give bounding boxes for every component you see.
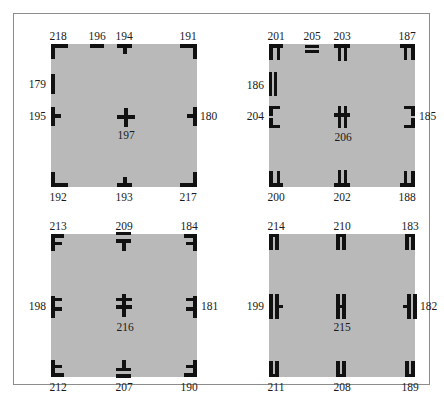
mark-label: 195	[29, 111, 46, 123]
mark-label: 181	[201, 301, 218, 313]
panel-top-right: 201 205 203 187 186	[242, 22, 442, 212]
mark-label: 210	[333, 221, 350, 233]
mark-label: 191	[179, 31, 196, 43]
mark-label: 198	[29, 301, 46, 313]
mark-label: 184	[180, 221, 197, 233]
mark-label: 193	[115, 192, 132, 204]
mark-label: 206	[334, 132, 351, 144]
mark-label: 180	[200, 111, 217, 123]
mark-label: 208	[333, 382, 350, 394]
mark-label: 194	[115, 31, 132, 43]
mark-label: 212	[49, 382, 66, 394]
panel-grid: 218 196 194 191 179 195	[0, 0, 444, 413]
mark-label: 207	[115, 382, 132, 394]
mark-label: 187	[398, 31, 415, 43]
mark-label: 182	[420, 301, 437, 313]
mark-label: 215	[333, 322, 350, 334]
mark-label: 186	[247, 80, 264, 92]
mark-label: 218	[49, 31, 66, 43]
mark-label: 189	[401, 382, 418, 394]
mark-label: 214	[267, 221, 284, 233]
mark-label: 211	[268, 382, 285, 394]
mark-label: 213	[49, 221, 66, 233]
panel-top-left: 218 196 194 191 179 195	[24, 22, 224, 212]
mark-label: 199	[247, 301, 264, 313]
mark-label: 188	[398, 192, 415, 204]
mark-label: 205	[303, 31, 320, 43]
mark-label: 183	[401, 221, 418, 233]
mark-label: 202	[333, 192, 350, 204]
mark-label: 203	[333, 31, 350, 43]
mark-label: 196	[88, 31, 105, 43]
panel-bottom-left: 213 209 184 198 216	[24, 212, 224, 402]
mark-label: 209	[115, 221, 132, 233]
mark-label: 216	[116, 322, 133, 334]
mark-label: 197	[117, 130, 134, 142]
mark-label: 217	[179, 192, 196, 204]
mark-label: 204	[247, 111, 264, 123]
mark-label: 185	[419, 111, 436, 123]
mark-label: 190	[180, 382, 197, 394]
mark-label: 192	[49, 192, 66, 204]
mark-label: 201	[267, 31, 284, 43]
mark-label: 200	[267, 192, 284, 204]
panel-bottom-right: 214 210 183 199 215	[242, 212, 442, 402]
mark-label: 179	[29, 79, 46, 91]
